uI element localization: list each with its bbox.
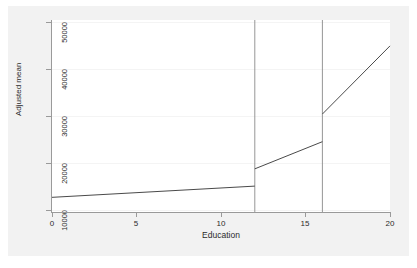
x-axis-title: Education [52,230,390,240]
gridline-30000 [52,116,390,117]
xtick-label-5: 5 [121,219,151,228]
xtick-mark-0 [52,213,53,217]
x-axis-line [51,212,391,213]
ytick-label-30000: 30000 [61,116,69,137]
xtick-label-10: 10 [206,219,236,228]
xtick-mark-10 [221,213,222,217]
xtick-label-20: 20 [375,219,405,228]
gridline-50000 [52,22,390,23]
gridline-40000 [52,69,390,70]
xtick-mark-5 [136,213,137,217]
xtick-mark-20 [390,213,391,217]
y-axis-title: Adjusted mean [14,63,23,116]
y-axis-line [51,20,52,213]
chart-figure: 50000 40000 30000 20000 10000 Adjusted m… [0,0,417,268]
ytick-label-50000: 50000 [61,22,69,43]
xtick-mark-15 [305,213,306,217]
gridline-20000 [52,163,390,164]
ytick-label-20000: 20000 [61,163,69,184]
gridline-10000 [52,210,390,211]
xtick-label-15: 15 [290,219,320,228]
xtick-label-0: 0 [37,219,67,228]
ytick-label-40000: 40000 [61,69,69,90]
